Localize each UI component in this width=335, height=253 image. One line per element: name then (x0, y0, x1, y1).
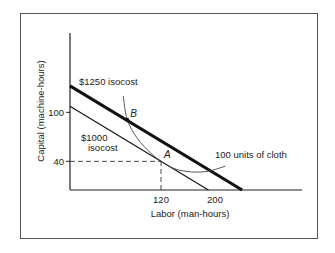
series-label-1250-isocost: $1250 isocost (79, 76, 138, 87)
series-label-1000-isocost-line-2: isocost (88, 142, 118, 153)
point-b-label: B (130, 108, 137, 119)
x-axis-label: Labor (man-hours) (151, 208, 230, 219)
y-axis-label: Capital (machine-hours) (35, 60, 46, 161)
point-b-marker (125, 118, 129, 122)
y-tick-label-40: 40 (53, 156, 64, 167)
point-a-label: A (163, 149, 171, 160)
y-tick-label-100: 100 (48, 107, 64, 118)
x-tick-label-120: 120 (153, 194, 169, 205)
x-tick-label-200: 200 (207, 194, 223, 205)
isocost-chart: AB 40100120200 Labor (man-hours) Capital… (0, 0, 335, 253)
series-label-100-units-of-cloth: 100 units of cloth (215, 149, 287, 160)
isoquant-100-units-of-cloth (123, 96, 225, 172)
